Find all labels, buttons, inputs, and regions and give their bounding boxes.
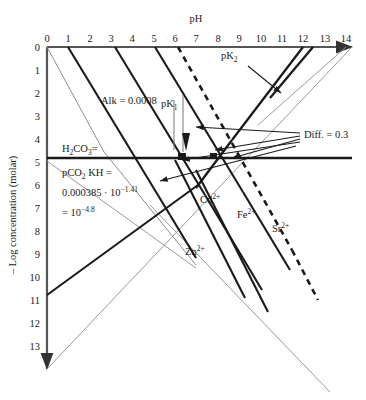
svg-text:10: 10: [30, 272, 41, 283]
svg-text:5: 5: [151, 33, 156, 44]
svg-text:9: 9: [35, 249, 40, 260]
svg-text:0: 0: [44, 33, 49, 44]
svg-text:14: 14: [341, 33, 352, 44]
annotation-alk: Alk = 0.0008: [101, 95, 157, 106]
series-pK1-dashed-ext: [292, 250, 318, 300]
y-axis-title: – Log concentration (molar): [7, 155, 19, 275]
svg-text:13: 13: [320, 33, 331, 44]
annotation-Cd: Cd2+: [200, 192, 220, 205]
svg-text:11: 11: [277, 33, 287, 44]
svg-text:8: 8: [215, 33, 220, 44]
svg-text:13: 13: [30, 341, 41, 352]
annotation-diff: Diff. = 0.3: [304, 129, 348, 140]
svg-text:7: 7: [193, 33, 198, 44]
svg-text:2: 2: [35, 88, 40, 99]
crossing-marker-b: [178, 153, 186, 160]
leader-pK2: [248, 66, 281, 93]
series-diagonal-faint-descending-b: [104, 152, 196, 265]
textbox-line-1: H2CO3=: [62, 143, 98, 157]
y-tick-labels: 0 1 2 3 4 5 6 7 8 9 10 11 12 13: [30, 42, 41, 352]
svg-text:5: 5: [35, 157, 40, 168]
svg-text:10: 10: [256, 33, 267, 44]
svg-text:1: 1: [35, 65, 40, 76]
series-alk-line-3: [155, 47, 243, 192]
svg-text:0: 0: [35, 42, 40, 53]
svg-text:6: 6: [172, 33, 177, 44]
svg-text:12: 12: [298, 33, 309, 44]
svg-text:1: 1: [65, 33, 70, 44]
svg-text:4: 4: [35, 134, 41, 145]
textbox-line-2: pCO2 KH =: [62, 167, 112, 181]
x-axis-title: pH: [190, 13, 203, 24]
svg-text:3: 3: [108, 33, 113, 44]
svg-text:12: 12: [30, 318, 41, 329]
annotation-pK1: pK1: [161, 98, 178, 112]
textbox-line-4: = 10−4.8: [62, 205, 95, 218]
svg-text:4: 4: [129, 33, 135, 44]
log-concentration-diagram: pH – Log concentration (molar) 0 1 2 3 4…: [0, 0, 366, 400]
svg-text:3: 3: [35, 111, 40, 122]
annotation-pK2: pK2: [221, 50, 238, 64]
annotation-Zn: Zn2+: [185, 244, 205, 257]
series-zn-descending: [175, 160, 245, 298]
svg-text:6: 6: [35, 180, 40, 191]
textbox-line-3: 0.000385 · 10−1.41: [62, 185, 138, 198]
series-faint-lower-right: [150, 205, 330, 392]
series-pK1-dashed: [178, 47, 292, 250]
x-tick-labels: 0 1 2 3 4 5 6 7 8 9 10 11 12 13 14: [44, 33, 352, 44]
chart-svg: pH – Log concentration (molar) 0 1 2 3 4…: [0, 0, 366, 400]
annotation-Sr: Sr2+: [272, 221, 289, 234]
series-diagonal-faint-descending: [47, 47, 104, 152]
series-right-rise-1: [232, 47, 303, 140]
svg-text:9: 9: [236, 33, 241, 44]
svg-text:11: 11: [30, 295, 40, 306]
svg-text:8: 8: [35, 226, 40, 237]
annotation-Fe: Fe2+: [237, 207, 255, 220]
series-right-rise-2: [270, 47, 313, 98]
svg-text:7: 7: [35, 203, 40, 214]
crossing-marker-c: [210, 153, 217, 159]
svg-text:2: 2: [87, 33, 92, 44]
